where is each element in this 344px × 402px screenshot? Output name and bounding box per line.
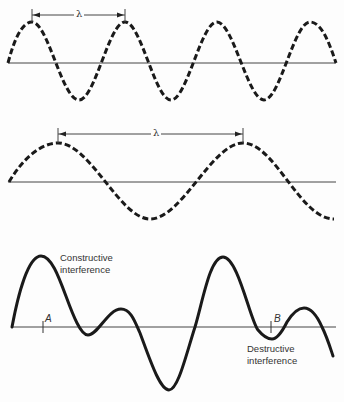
arrowhead-right-icon [235,132,242,137]
arrowhead-left-icon [59,132,66,137]
constructive-interference-label: Constructive interference [60,252,113,275]
point-b-label: B [274,313,281,324]
wavelength-label-1: λ [74,9,84,19]
point-a-label: A [45,313,52,324]
destructive-interference-label: Destructive interference [247,343,297,366]
wave-interference-diagram [0,0,344,402]
arrowhead-left-icon [33,13,40,18]
solid-wave-resultant [12,256,333,390]
panel-long-wavelength [8,128,336,219]
dashed-wave-long [9,143,334,219]
panel-superposition [12,256,336,390]
panel-short-wavelength [8,9,336,100]
dashed-wave-short [8,22,336,100]
wavelength-label-2: λ [151,128,161,138]
arrowhead-right-icon [117,13,124,18]
